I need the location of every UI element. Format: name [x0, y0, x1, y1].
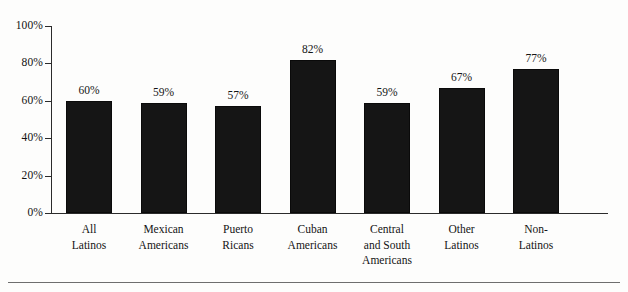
y-tick-mark	[45, 176, 52, 177]
y-tick-label-wrap: 0%	[0, 207, 43, 219]
y-tick-label: 20%	[1, 170, 43, 182]
bar-value-label: 59%	[352, 86, 422, 98]
x-axis-category-line: Non-	[488, 222, 584, 238]
y-tick-label: 60%	[1, 95, 43, 107]
y-tick-label: 100%	[1, 20, 43, 32]
bar-value-label: 59%	[129, 86, 199, 98]
bar-group[interactable]: 67%OtherLatinos	[439, 0, 485, 292]
y-tick-mark	[45, 138, 52, 139]
y-axis-line	[51, 26, 52, 214]
y-tick-mark	[45, 63, 52, 64]
y-tick-label: 0%	[1, 207, 43, 219]
bar-group[interactable]: 77%Non-Latinos	[513, 0, 559, 292]
bar-value-label: 77%	[501, 52, 571, 64]
bar-value-label: 67%	[427, 71, 497, 83]
bar[interactable]	[364, 103, 410, 213]
bar-group[interactable]: 59%MexicanAmericans	[141, 0, 187, 292]
y-tick-label-wrap: 80%	[0, 57, 43, 69]
bar-group[interactable]: 60%AllLatinos	[66, 0, 112, 292]
y-tick-mark	[45, 213, 52, 214]
y-tick-label-wrap: 100%	[0, 20, 43, 32]
bar[interactable]	[513, 69, 559, 213]
bar[interactable]	[290, 60, 336, 213]
bar-group[interactable]: 57%PuertoRicans	[215, 0, 261, 292]
bar[interactable]	[141, 103, 187, 213]
y-tick-label-wrap: 20%	[0, 170, 43, 182]
bar-value-label: 82%	[278, 43, 348, 55]
bar[interactable]	[66, 101, 112, 213]
x-axis-category-label: Non-Latinos	[488, 222, 584, 253]
x-axis-category-line: Americans	[339, 253, 435, 269]
x-axis-category-line: Latinos	[488, 238, 584, 254]
bottom-divider	[8, 282, 620, 283]
y-tick-label: 40%	[1, 132, 43, 144]
bar-value-label: 57%	[203, 89, 273, 101]
bar[interactable]	[215, 106, 261, 213]
bar-group[interactable]: 59%Centraland SouthAmericans	[364, 0, 410, 292]
y-tick-label-wrap: 40%	[0, 132, 43, 144]
bar-chart-figure: 0%20%40%60%80%100% 60%AllLatinos59%Mexic…	[0, 0, 628, 292]
y-tick-label: 80%	[1, 57, 43, 69]
bar-group[interactable]: 82%CubanAmericans	[290, 0, 336, 292]
y-tick-label-wrap: 60%	[0, 95, 43, 107]
plot-area: 0%20%40%60%80%100% 60%AllLatinos59%Mexic…	[0, 0, 628, 292]
y-tick-mark	[45, 26, 52, 27]
bar[interactable]	[439, 88, 485, 213]
bar-value-label: 60%	[54, 84, 124, 96]
y-tick-mark	[45, 101, 52, 102]
